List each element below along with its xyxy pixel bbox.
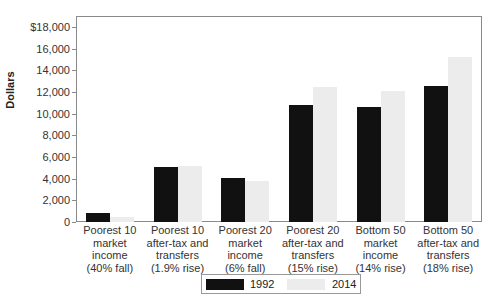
bar-2014	[245, 181, 269, 222]
y-tick-label: 4,000	[42, 173, 70, 185]
legend-label-1992: 1992	[250, 278, 274, 290]
y-tick-label: 0	[64, 216, 70, 228]
y-tick-label: 8,000	[42, 129, 70, 141]
plot-area	[76, 16, 482, 222]
legend: 1992 2014	[201, 274, 361, 294]
x-tick-label: Poorest 20 after-tax and transfers (15% …	[279, 224, 347, 274]
x-tick-label: Poorest 20 market income (6% fall)	[211, 224, 279, 274]
y-axis-label: Dollars	[4, 60, 16, 120]
x-tick-label: Bottom 50 market income (14% rise)	[347, 224, 415, 274]
bar-2014	[313, 87, 337, 222]
bar-2014	[448, 57, 472, 222]
x-tick-label: Bottom 50 after-tax and transfers (18% r…	[414, 224, 482, 274]
y-tick-label: $18,000	[30, 21, 70, 33]
y-tick-label: 16,000	[36, 43, 70, 55]
y-tick-label: 10,000	[36, 108, 70, 120]
bar-1992	[424, 86, 448, 222]
bar-1992	[357, 107, 381, 222]
y-tick-label: 12,000	[36, 86, 70, 98]
bar-2014	[381, 91, 405, 222]
legend-label-2014: 2014	[332, 278, 356, 290]
x-tick-label: Poorest 10 after-tax and transfers (1.9%…	[144, 224, 212, 274]
bar-2014	[178, 166, 202, 222]
legend-swatch-2014	[287, 279, 325, 290]
bar-1992	[221, 178, 245, 222]
bar-1992	[289, 105, 313, 222]
x-tick-label: Poorest 10 market income (40% fall)	[76, 224, 144, 274]
y-tick-mark	[72, 222, 76, 223]
legend-swatch-1992	[206, 279, 244, 290]
bar-1992	[154, 167, 178, 222]
bar-2014	[110, 217, 134, 222]
y-tick-label: 6,000	[42, 151, 70, 163]
y-tick-label: 14,000	[36, 64, 70, 76]
y-tick-label: 2,000	[42, 194, 70, 206]
bar-1992	[86, 213, 110, 222]
